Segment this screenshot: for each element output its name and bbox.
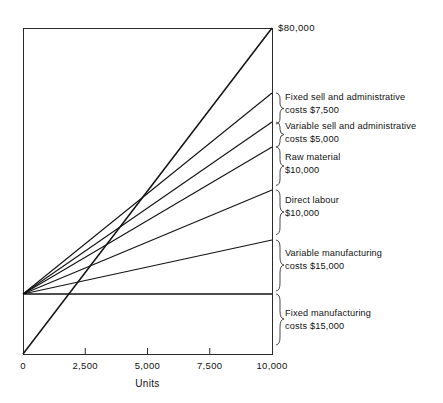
brace-fixed-manufacturing	[276, 294, 284, 345]
series-line-variable-manufacturing	[23, 240, 272, 294]
brace-variable-manufacturing	[276, 240, 284, 291]
band-label-raw-material-line2: $10,000	[285, 165, 319, 175]
series-line-variable-sell-admin	[23, 122, 272, 294]
band-label-raw-material-line1: Raw material	[285, 152, 340, 162]
band-label-fixed-sell-admin-line2: costs $7,500	[285, 105, 339, 115]
band-label-variable-manufacturing-line1: Variable manufacturing	[285, 248, 382, 258]
x-axis-title: Units	[135, 378, 159, 389]
band-label-variable-sell-admin-line1: Variable sell and administrative	[285, 121, 416, 131]
series-line-direct-labour	[23, 190, 272, 294]
series-line-sales-revenue	[23, 28, 272, 354]
chart-canvas: $80,000 Fixed sell and administrative co…	[0, 0, 443, 403]
x-tick-label-10000: 10,000	[256, 360, 287, 371]
x-tick-label-2500: 2,500	[72, 360, 98, 371]
x-tick-label-7500: 7,500	[197, 360, 223, 371]
top-value-label: $80,000	[278, 22, 315, 33]
band-label-variable-sell-admin-line2: costs $5,000	[285, 134, 339, 144]
band-label-fixed-manufacturing-line1: Fixed manufacturing	[285, 308, 371, 318]
cost-volume-chart: $80,000 Fixed sell and administrative co…	[0, 0, 443, 403]
band-label-direct-labour-line1: Direct labour	[285, 195, 339, 205]
series-line-total-cost	[23, 93, 272, 294]
band-label-fixed-manufacturing-line2: costs $15,000	[285, 321, 344, 331]
x-tick-label-0: 0	[20, 360, 26, 371]
x-tick-label-5000: 5,000	[135, 360, 161, 371]
brace-variable-sell-admin	[276, 122, 284, 147]
band-label-variable-manufacturing-line2: costs $15,000	[285, 261, 344, 271]
brace-direct-labour	[276, 190, 284, 235]
brace-fixed-sell-admin	[276, 93, 284, 124]
band-label-fixed-sell-admin-line1: Fixed sell and administrative	[285, 92, 405, 102]
band-label-direct-labour-line2: $10,000	[285, 208, 319, 218]
brace-raw-material	[276, 147, 284, 186]
series-line-raw-material	[23, 147, 272, 294]
